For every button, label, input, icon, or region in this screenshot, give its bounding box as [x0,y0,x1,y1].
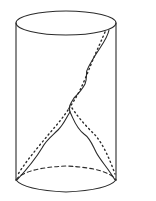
cylinder-diagram [0,0,156,201]
dotted-curve-lower-left [17,110,68,176]
dotted-curve-lower-right [72,108,115,174]
solid-curve-lower-left [17,112,70,180]
solid-curve-lower-right [70,112,115,180]
solid-wavy-curve-upper [69,30,109,112]
cylinder-bottom-back-arc [16,166,116,180]
cylinder-drawing [0,0,156,201]
cylinder-bottom-front-arc [16,180,116,192]
cylinder-top-ellipse [16,11,116,35]
